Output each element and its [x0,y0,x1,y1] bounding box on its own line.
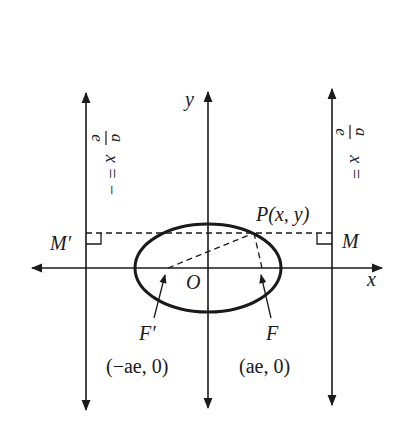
left-directrix-equation: x = − [102,154,122,196]
right-directrix-equation: x = [346,154,366,180]
pointer-arrow-f-prime [154,275,165,318]
svg-text:e: e [88,134,107,142]
focus-f-label: F [265,322,279,344]
x-axis-label: x [366,268,376,290]
svg-text:x =: x = [346,154,366,180]
right-angle-marker-m [317,233,332,244]
right-angle-marker-m-prime [86,233,101,244]
focus-f-prime-coords: (−ae, 0) [106,355,168,378]
left-directrix-fraction: a e [88,131,127,145]
svg-text:x = −: x = − [102,154,122,196]
point-m-label: M [341,230,360,252]
svg-text:a: a [108,134,127,143]
focus-f-prime-label: F′ [138,322,156,344]
svg-text:a: a [352,128,371,137]
point-m-prime-label: M′ [49,232,72,254]
right-directrix-fraction: a e [332,125,371,139]
ellipse-diagram: y x O P(x, y) M M′ F′ (−ae, 0) F (ae, 0)… [0,0,410,437]
svg-text:e: e [332,128,351,136]
focus-f-coords: (ae, 0) [239,355,290,378]
dashed-line-f-prime-to-p [168,233,254,268]
point-p-label: P(x, y) [255,203,310,226]
origin-label: O [186,271,200,293]
y-axis-label: y [183,88,194,111]
